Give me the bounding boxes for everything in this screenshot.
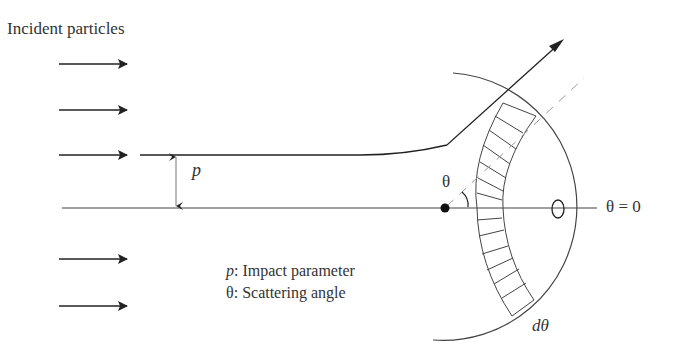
legend-item-impact-parameter: p: Impact parameter: [226, 262, 355, 280]
diagram-title: Incident particles: [7, 19, 125, 39]
legend-symbol: θ: [226, 284, 234, 301]
legend-separator: :: [234, 284, 242, 301]
band-inner-arc: [476, 103, 512, 316]
hatched-band: [476, 103, 536, 316]
d-theta-label: dθ: [532, 316, 549, 336]
outer-sphere-arc: [433, 73, 577, 340]
dashed-scattering-direction: [447, 78, 584, 206]
impact-parameter-label: p: [192, 160, 201, 181]
legend-item-scattering-angle: θ: Scattering angle: [226, 284, 346, 302]
scattering-angle-label: θ: [442, 172, 450, 192]
d-theta-symbol: dθ: [532, 316, 549, 335]
particle-trajectory: [140, 43, 560, 155]
incident-arrows: [59, 64, 127, 306]
detector-ellipse: [552, 200, 564, 218]
legend-symbol: p: [226, 262, 234, 279]
scattering-center-dot: [441, 204, 450, 213]
zero-angle-label: θ = 0: [606, 197, 641, 217]
legend-text: Impact parameter: [242, 262, 354, 279]
legend-text: Scattering angle: [242, 284, 346, 301]
theta-angle-arc: [462, 192, 468, 207]
